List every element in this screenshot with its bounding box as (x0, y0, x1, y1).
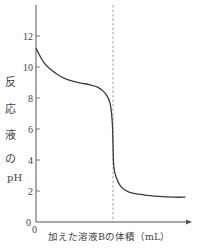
y-tick-label: 2 (28, 186, 33, 197)
x-axis-label: 加えた溶液Bの体積（mL） (48, 229, 170, 243)
y-ticks: 024681012 (23, 31, 40, 228)
titration-chart: 024681012 0 (0, 0, 200, 249)
y-tick-label: 12 (23, 31, 33, 42)
y-tick-label: 8 (28, 93, 33, 104)
y-axis-label-char: 応 (5, 100, 16, 116)
y-axis-label-char: 反 (5, 73, 16, 89)
y-axis-label-char: の (5, 150, 16, 166)
y-axis-label-char: 液 (5, 126, 16, 142)
ph-curve (36, 48, 185, 197)
y-axis-label-char: pH (7, 172, 22, 183)
x-origin-label: 0 (32, 224, 37, 235)
x-axis-arrow-icon (186, 220, 192, 225)
y-tick-label: 0 (26, 217, 31, 228)
axes (36, 5, 192, 225)
y-tick-label: 10 (23, 62, 33, 73)
y-tick-label: 4 (28, 155, 33, 166)
y-tick-label: 6 (28, 124, 33, 135)
